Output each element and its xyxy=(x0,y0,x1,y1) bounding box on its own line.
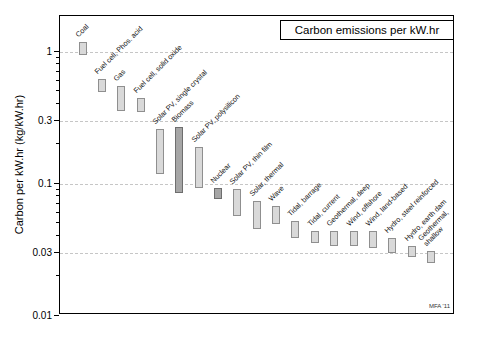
y-minor-tick xyxy=(56,212,59,213)
carbon-emissions-chart: Carbon per kW.hr (kg/kW.hr) CoalFuel cel… xyxy=(0,0,484,340)
chart-title-box: Carbon emissions per kW.hr xyxy=(280,20,454,40)
gridline xyxy=(60,121,453,122)
bar-label: Solar PV, polysilicon xyxy=(190,93,242,145)
range-bar xyxy=(350,231,358,246)
range-bar xyxy=(388,238,396,253)
range-bar xyxy=(427,251,435,263)
y-major-tick xyxy=(54,51,59,52)
bar-label: Wave xyxy=(267,185,285,203)
y-minor-tick xyxy=(56,63,59,64)
y-minor-tick xyxy=(56,143,59,144)
range-bar xyxy=(233,189,241,216)
range-bar xyxy=(175,127,183,193)
range-bar xyxy=(117,86,125,110)
range-bar xyxy=(79,42,87,55)
y-tick-label: 0.01 xyxy=(20,310,52,321)
chart-credit: MFA '11 xyxy=(404,303,450,309)
y-minor-tick xyxy=(56,80,59,81)
range-bar xyxy=(156,129,164,173)
y-minor-tick xyxy=(56,90,59,91)
range-bar xyxy=(214,188,222,199)
y-minor-tick xyxy=(56,222,59,223)
y-minor-tick xyxy=(56,57,59,58)
range-bar xyxy=(195,147,203,188)
y-tick-label: 0.1 xyxy=(20,178,52,189)
range-bar xyxy=(272,206,280,224)
y-minor-tick xyxy=(56,275,59,276)
y-tick-label: 0.3 xyxy=(20,115,52,126)
y-minor-tick xyxy=(56,203,59,204)
bar-label: Coal xyxy=(74,22,90,38)
range-bar xyxy=(253,201,261,228)
y-minor-tick xyxy=(56,235,59,236)
range-bar xyxy=(137,98,145,112)
y-minor-tick xyxy=(56,189,59,190)
range-bar xyxy=(98,79,106,91)
y-tick-label: 0.03 xyxy=(20,247,52,258)
range-bar xyxy=(311,231,319,243)
range-bar xyxy=(291,221,299,237)
y-minor-tick xyxy=(56,103,59,104)
y-tick-label: 1 xyxy=(20,46,52,57)
range-bar xyxy=(330,231,338,246)
plot-area: CoalFuel cell, Phos. acidGasFuel cell, s… xyxy=(59,15,454,314)
range-bar xyxy=(408,246,416,257)
y-major-tick xyxy=(54,120,59,121)
bar-label: Geothermal, shallow xyxy=(417,209,456,248)
range-bar xyxy=(369,231,377,247)
y-major-tick xyxy=(54,252,59,253)
bar-label: Gas xyxy=(113,68,128,83)
y-minor-tick xyxy=(56,195,59,196)
y-major-tick xyxy=(54,183,59,184)
y-axis-title: Carbon per kW.hr (kg/kW.hr) xyxy=(13,15,26,315)
y-minor-tick xyxy=(56,71,59,72)
y-major-tick xyxy=(54,315,59,316)
